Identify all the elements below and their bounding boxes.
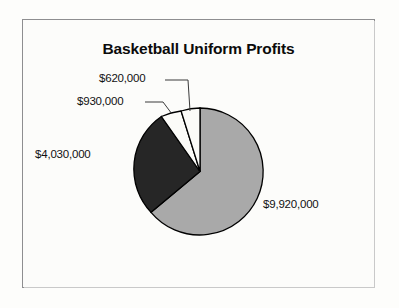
chart-frame: Basketball Uniform Profits $620,000 $930… [22,19,375,288]
leader-line-930000 [145,102,172,114]
leader-line-620000 [165,80,190,111]
pie-label-4030000: $4,030,000 [35,148,91,160]
pie-label-9920000: $9,920,000 [263,198,319,210]
pie-label-620000: $620,000 [99,72,145,84]
pie-label-930000: $930,000 [77,95,123,107]
chart-screenshot: Basketball Uniform Profits $620,000 $930… [0,0,399,308]
